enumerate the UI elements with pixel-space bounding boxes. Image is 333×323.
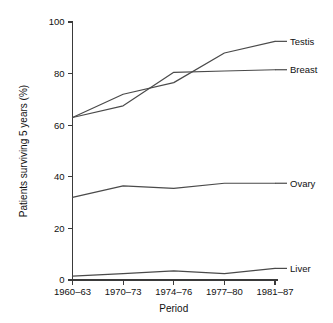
series-lines [73, 41, 276, 276]
series-label-testis: Testis [290, 36, 315, 47]
y-tick-label-0: 0 [59, 274, 64, 285]
x-axis: 1960–631970–731974–761977–801981–87 [54, 280, 293, 297]
x-tick-label-1: 1970–73 [105, 286, 142, 297]
series-label-breast: Breast [290, 64, 318, 75]
series-label-ovary: Ovary [290, 178, 316, 189]
y-tick-label-40: 40 [54, 171, 65, 182]
y-tick-label-80: 80 [54, 68, 65, 79]
y-tick-label-100: 100 [49, 16, 65, 27]
x-tick-label-4: 1981–87 [257, 286, 294, 297]
series-label-liver: Liver [290, 263, 311, 274]
series-line-testis [73, 41, 276, 117]
x-axis-title: Period [159, 303, 188, 314]
series-line-ovary [73, 183, 276, 197]
y-axis: 020406080100 [49, 16, 73, 285]
chart-canvas: 020406080100 1960–631970–731974–761977–8… [0, 0, 333, 323]
series-labels: TestisBreastOvaryLiver [275, 36, 318, 274]
y-axis-title: Patients surviving 5 years (%) [18, 85, 29, 217]
series-line-liver [73, 268, 276, 276]
x-tick-label-2: 1974–76 [155, 286, 192, 297]
y-tick-label-60: 60 [54, 120, 65, 131]
survival-line-chart: 020406080100 1960–631970–731974–761977–8… [0, 0, 333, 323]
series-line-breast [73, 70, 276, 118]
x-tick-label-0: 1960–63 [54, 286, 91, 297]
x-tick-label-3: 1977–80 [206, 286, 243, 297]
y-tick-label-20: 20 [54, 223, 65, 234]
